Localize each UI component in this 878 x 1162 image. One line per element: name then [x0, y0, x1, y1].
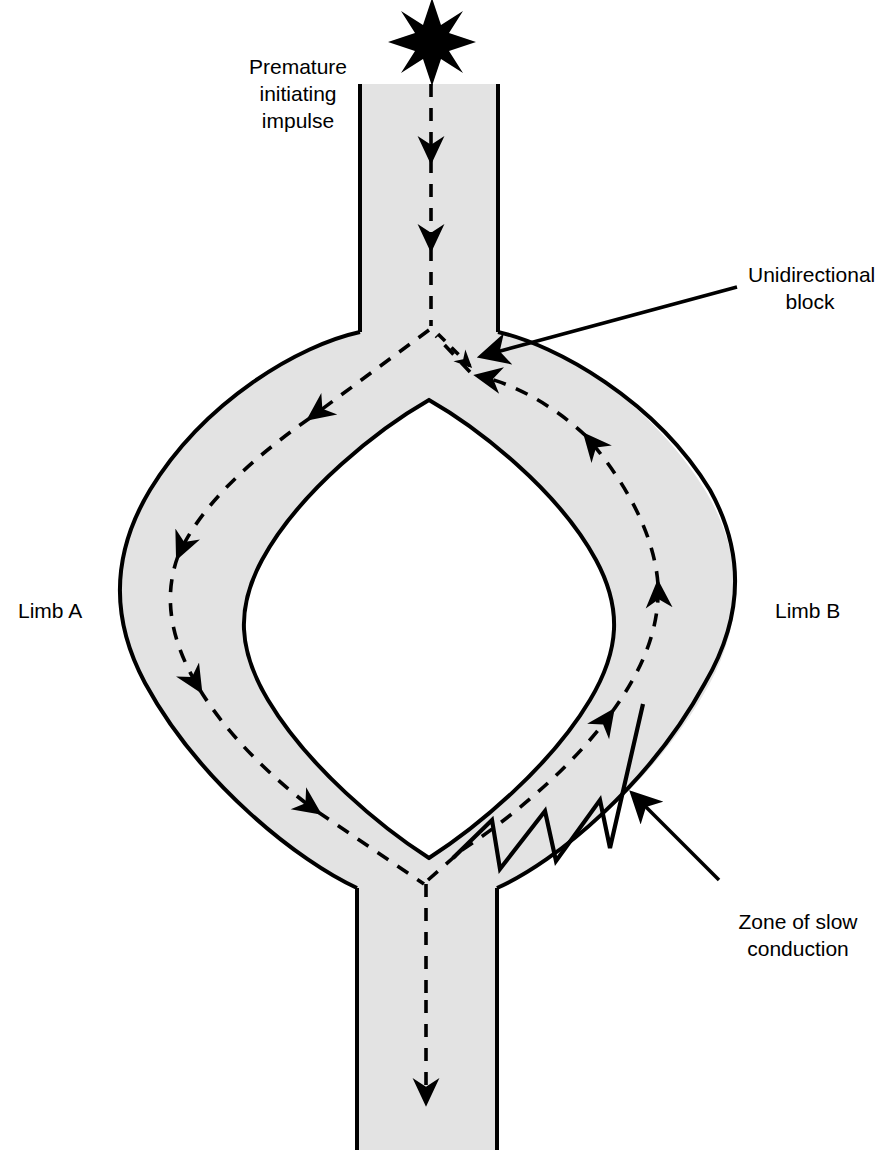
label-limb-b: Limb B — [775, 597, 840, 624]
label-limb-a: Limb A — [18, 597, 82, 624]
leader-line-unidirectional-block — [482, 287, 737, 356]
label-unidirectional-block: Unidirectional block — [748, 261, 872, 315]
leader-line-zone-of-slow-conduction — [633, 794, 719, 880]
label-premature-initiating-impulse: Premature initiating impulse — [243, 53, 353, 134]
lower-trunk-shape — [357, 886, 497, 1150]
reentry-circuit-svg — [0, 0, 878, 1162]
upper-trunk-shape — [360, 84, 498, 332]
label-zone-of-slow-conduction: Zone of slow conduction — [722, 908, 874, 962]
reentry-circuit-figure: Premature initiating impulse Unidirectio… — [0, 0, 878, 1162]
starburst-icon — [388, 0, 476, 86]
